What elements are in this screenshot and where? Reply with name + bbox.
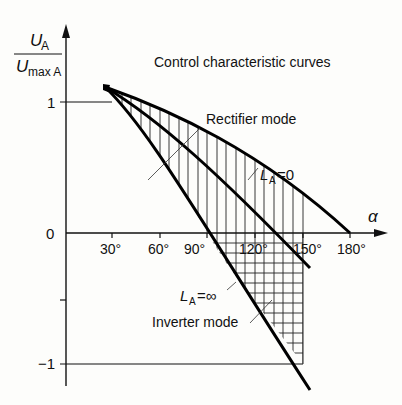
- rectifier-mode-label: Rectifier mode: [206, 111, 296, 127]
- x-axis-label-alpha: α: [368, 207, 379, 226]
- x-tick-label-180: 180°: [337, 241, 366, 257]
- la-inf-label-sub: A: [189, 296, 196, 307]
- x-tick-label-150: 150°: [293, 241, 322, 257]
- la-zero-label-rest: =0: [277, 166, 294, 183]
- la-inf-label-L: L: [180, 287, 188, 304]
- la-zero-label-sub: A: [269, 175, 276, 186]
- x-tick-label-90: 90°: [184, 241, 205, 257]
- x-tick-label-120: 120°: [239, 241, 268, 257]
- y-tick-label-0: 0: [46, 225, 54, 242]
- la-inf-label-rest: =∞: [197, 287, 217, 304]
- la-zero-label-L: L: [260, 166, 268, 183]
- x-tick-label-60: 60°: [148, 241, 169, 257]
- x-tick-label-30: 30°: [100, 241, 121, 257]
- la-inf-leader: [227, 282, 236, 290]
- la-zero-leader: [248, 168, 258, 180]
- y-label-denominator-sub: max A: [28, 65, 61, 79]
- y-tick-label-1: 1: [47, 94, 55, 111]
- y-label-numerator-sub: A: [41, 39, 49, 53]
- y-axis-arrow-icon: [62, 24, 70, 38]
- rectifier-hatch: [112, 80, 303, 233]
- y-tick-label-minus-1: −1: [38, 355, 55, 372]
- x-ticks: [112, 233, 350, 238]
- curve-la-zero: [105, 87, 350, 233]
- x-axis-arrow-icon: [374, 229, 388, 237]
- inverter-mode-label: Inverter mode: [152, 314, 239, 330]
- control-characteristic-chart: U A U max A Control characteristic curve…: [0, 0, 402, 405]
- chart-title: Control characteristic curves: [154, 54, 331, 70]
